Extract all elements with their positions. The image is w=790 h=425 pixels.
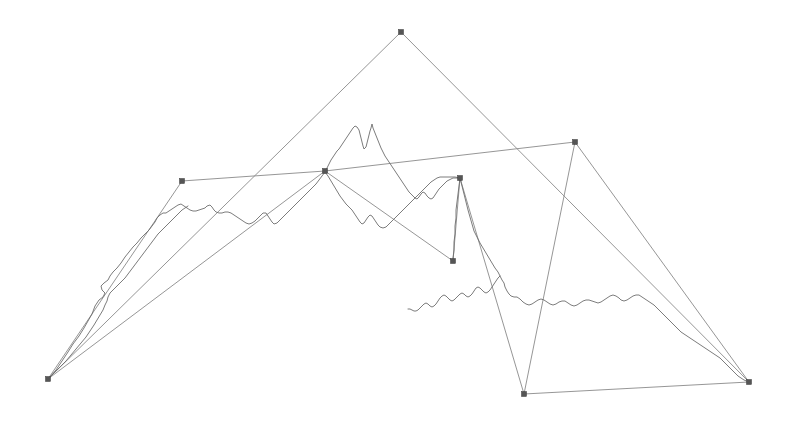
vertex-marker-right-node[interactable] [747,380,752,385]
vertex-marker-bottom-mid-node[interactable] [522,392,527,397]
vertex-marker-apex-node[interactable] [399,30,404,35]
vertex-marker-center-lower-node[interactable] [451,259,456,264]
network-coastline-figure [0,0,790,425]
figure-background [0,0,790,425]
vertex-marker-center-left-node[interactable] [323,169,328,174]
vertex-marker-left-node[interactable] [180,179,185,184]
figure-root [0,0,790,425]
vertex-marker-bottom-left-node[interactable] [46,377,51,382]
vertex-marker-top-right-node[interactable] [573,140,578,145]
vertex-marker-center-right-node[interactable] [458,176,463,181]
